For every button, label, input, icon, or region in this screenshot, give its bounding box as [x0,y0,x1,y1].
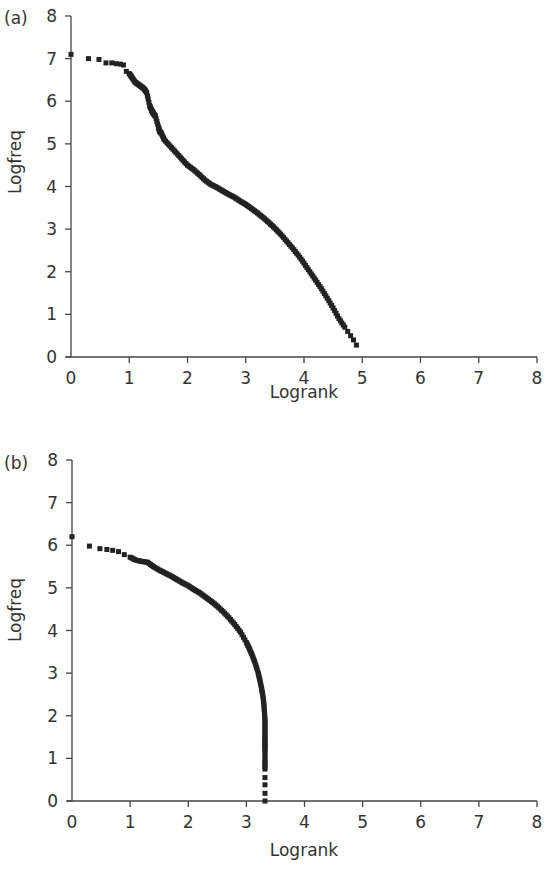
x-axis-label-a: Logrank [270,382,339,402]
x-tick-label: 6 [415,368,426,388]
x-tick-label: 0 [67,812,78,832]
panel-label-b: (b) [4,453,28,473]
y-ticks-b: 012345678 [47,450,72,811]
x-tick-label: 1 [124,368,135,388]
y-tick-label: 4 [46,177,57,197]
x-tick-label: 7 [473,368,484,388]
y-tick-label: 2 [47,706,58,726]
y-tick-label: 7 [47,493,58,513]
y-tick-label: 4 [47,621,58,641]
x-tick-label: 1 [125,812,136,832]
y-tick-label: 1 [47,748,58,768]
x-tick-label: 6 [415,812,426,832]
y-tick-label: 6 [46,91,57,111]
x-axis-label-b: Logrank [270,840,339,860]
x-ticks-b: 012345678 [67,801,543,832]
x-tick-label: 2 [183,812,194,832]
x-tick-label: 3 [241,812,252,832]
y-tick-label: 0 [47,791,58,811]
chart-panel-a: (a) 012345678 012345678 Logrank Logfreq [4,6,542,402]
y-tick-label: 5 [46,134,57,154]
y-tick-label: 7 [46,49,57,69]
data-points-a [69,52,359,348]
x-tick-label: 7 [473,812,484,832]
x-tick-label: 3 [240,368,251,388]
y-tick-label: 3 [47,663,58,683]
y-tick-label: 8 [47,450,58,470]
y-axis-label-a: Logfreq [5,130,25,194]
y-tick-label: 1 [46,304,57,324]
y-axis-label-b: Logfreq [5,578,25,642]
y-tick-label: 8 [46,6,57,26]
y-tick-label: 6 [47,535,58,555]
x-tick-label: 8 [532,812,543,832]
x-tick-label: 8 [532,368,543,388]
x-tick-label: 5 [357,368,368,388]
panel-label-a: (a) [4,8,28,28]
chart-panel-b: (b) 012345678 012345678 Logrank Logfreq [4,450,542,860]
y-tick-label: 3 [46,219,57,239]
x-tick-label: 2 [182,368,193,388]
x-tick-label: 4 [299,812,310,832]
x-tick-label: 0 [66,368,77,388]
data-points-b [70,534,268,803]
y-tick-label: 5 [47,578,58,598]
y-ticks-a: 012345678 [46,6,71,367]
y-tick-label: 2 [46,262,57,282]
figure: (a) 012345678 012345678 Logrank Logfreq … [0,0,548,870]
x-tick-label: 5 [357,812,368,832]
y-tick-label: 0 [46,347,57,367]
